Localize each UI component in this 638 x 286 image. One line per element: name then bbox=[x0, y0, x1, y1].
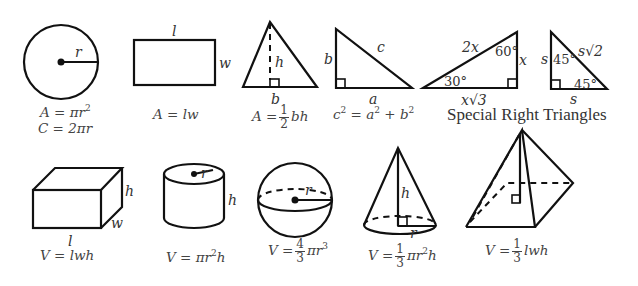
cone-height-label: h bbox=[401, 186, 410, 200]
denominator: 2 bbox=[279, 118, 289, 131]
rectangular-prism-shape bbox=[33, 168, 122, 228]
denominator: 3 bbox=[395, 257, 405, 270]
sphere-shape bbox=[258, 163, 332, 237]
rectangle-length-label: l bbox=[172, 24, 176, 38]
hypotenuse-c-label: c bbox=[377, 40, 385, 54]
circle-area-text: A = πr bbox=[40, 104, 85, 120]
rectangle-width-label: w bbox=[219, 56, 231, 70]
b-term: + b bbox=[380, 106, 409, 122]
denominator: 3 bbox=[512, 252, 522, 265]
cone-shape bbox=[364, 148, 436, 234]
pythagorean-formula: c2 = a2 + b2 bbox=[333, 106, 414, 122]
prism-length-label: l bbox=[68, 234, 72, 248]
rectangle-shape bbox=[134, 40, 215, 85]
right-triangle-shape bbox=[336, 29, 412, 88]
formula-suffix: h bbox=[428, 247, 437, 263]
fraction: 12 bbox=[279, 104, 289, 130]
fraction: 43 bbox=[295, 238, 305, 264]
exponent: 2 bbox=[85, 103, 91, 113]
sphere-radius-label: r bbox=[305, 183, 312, 197]
cone-volume-formula: V =13πr2h bbox=[368, 243, 437, 269]
pyramid-volume-formula: V =13lwh bbox=[485, 238, 549, 264]
angle-60-label: 60° bbox=[495, 45, 518, 58]
leg-b-label: b bbox=[324, 52, 333, 66]
cylinder-radius-label: r bbox=[201, 166, 208, 180]
hypotenuse-2x-label: 2x bbox=[462, 40, 479, 54]
formula-suffix: πr bbox=[307, 242, 322, 258]
angle-30-label: 30° bbox=[444, 75, 467, 88]
circle-circumference-formula: C = 2πr bbox=[38, 122, 92, 136]
c-term: c bbox=[333, 106, 341, 122]
a-term: = a bbox=[346, 106, 374, 122]
circle-radius-label: r bbox=[75, 45, 82, 59]
denominator: 3 bbox=[295, 252, 305, 265]
leg-a-label: a bbox=[369, 92, 377, 106]
hypotenuse-s-root2-label: s√2 bbox=[578, 44, 603, 58]
numerator: 4 bbox=[295, 238, 305, 252]
cone-radius-label: r bbox=[410, 226, 417, 240]
cylinder-height-label: h bbox=[228, 193, 237, 207]
fraction: 13 bbox=[512, 238, 522, 264]
prism-volume-formula: V = lwh bbox=[40, 249, 94, 263]
formula-prefix: V = πr bbox=[166, 249, 211, 265]
numerator: 1 bbox=[512, 238, 522, 252]
circle-area-formula: A = πr2 bbox=[40, 104, 91, 120]
formula-prefix: V = bbox=[485, 242, 510, 258]
formula-suffix: h bbox=[217, 249, 226, 265]
formula-suffix: bh bbox=[291, 108, 308, 124]
formula-prefix: V = bbox=[268, 242, 293, 258]
geometry-formula-sheet: r A = πr2 C = 2πr l w A = lw h b A =12bh… bbox=[0, 0, 638, 286]
pyramid-shape bbox=[466, 130, 573, 227]
exponent: 3 bbox=[322, 241, 328, 251]
prism-width-label: w bbox=[111, 216, 123, 230]
exponent: 2 bbox=[409, 105, 415, 115]
rectangle-area-formula: A = lw bbox=[153, 108, 199, 122]
short-leg-x-label: x bbox=[519, 53, 527, 67]
fraction: 13 bbox=[395, 243, 405, 269]
sphere-volume-formula: V =43πr3 bbox=[268, 238, 328, 264]
angle-45-bottom-label: 45° bbox=[574, 78, 597, 91]
triangle-area-formula: A =12bh bbox=[252, 104, 308, 130]
leg-s-vertical-label: s bbox=[541, 52, 548, 66]
formula-prefix: A = bbox=[252, 108, 277, 124]
formula-suffix: lwh bbox=[524, 242, 549, 258]
triangle-height-label: h bbox=[275, 55, 284, 69]
numerator: 1 bbox=[395, 243, 405, 257]
prism-height-label: h bbox=[125, 184, 134, 198]
cylinder-shape bbox=[164, 164, 224, 228]
formula-mid: πr bbox=[407, 247, 422, 263]
formula-prefix: V = bbox=[368, 247, 393, 263]
angle-45-top-label: 45° bbox=[553, 53, 576, 66]
cylinder-volume-formula: V = πr2h bbox=[166, 249, 225, 265]
leg-s-horizontal-label: s bbox=[570, 92, 577, 106]
numerator: 1 bbox=[279, 104, 289, 118]
special-right-triangles-caption: Special Right Triangles bbox=[447, 105, 607, 125]
circle-shape bbox=[24, 25, 98, 99]
